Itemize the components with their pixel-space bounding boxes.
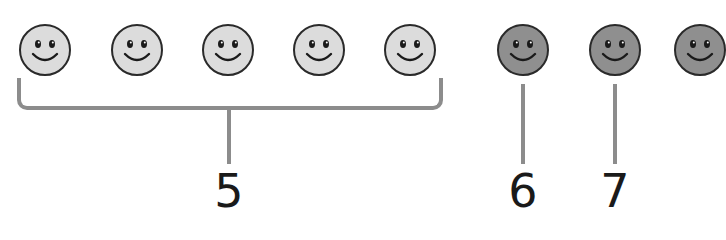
smiley-face-icon (497, 24, 549, 76)
smiley-face-icon (384, 24, 436, 76)
seventh-label: 7 (595, 168, 635, 214)
sixth-label: 6 (503, 168, 543, 214)
smiley-face-icon (111, 24, 163, 76)
smiley-face-icon (19, 24, 71, 76)
seventh-stem (613, 84, 617, 164)
smiley-face-icon (293, 24, 345, 76)
smiley-face-icon (589, 24, 641, 76)
group-count-label: 5 (209, 168, 249, 214)
smiley-face-icon (674, 24, 726, 76)
sixth-stem (521, 84, 525, 164)
group-stem (227, 106, 231, 164)
smiley-face-icon (202, 24, 254, 76)
